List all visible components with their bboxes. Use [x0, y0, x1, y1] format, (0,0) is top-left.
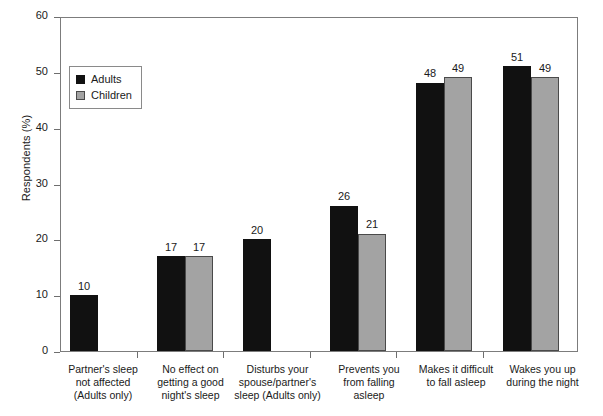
bar-adults-disturbs-spouse[interactable]: [243, 239, 271, 351]
y-tick-label-20: 20: [36, 232, 48, 244]
y-tick-0: 0: [0, 352, 60, 353]
y-tick-label-10: 10: [36, 288, 48, 300]
y-tick-40: 40: [0, 129, 60, 130]
bar-children-difficult-to-fall-asleep[interactable]: [444, 77, 472, 351]
y-axis-title: Respondents (%): [20, 58, 32, 258]
bar-children-prevents-falling-asleep[interactable]: [358, 234, 386, 351]
bar-value-g2-children: 17: [179, 241, 219, 253]
bar-value-g6-children: 49: [525, 62, 565, 74]
x-category-label-6-line1: Wakes you up: [490, 363, 595, 376]
bar-value-g3-adults: 20: [237, 224, 277, 236]
legend-entry-adults[interactable]: Adults: [76, 71, 132, 87]
y-tick-30: 30: [0, 185, 60, 186]
y-tick-60: 60: [0, 17, 60, 18]
bar-chart-figure: Respondents (%) 60 50 40 30 20 10 0 10: [0, 0, 603, 416]
legend-label-adults: Adults: [91, 73, 122, 85]
bar-adults-no-effect[interactable]: [157, 256, 185, 351]
x-tick-mark-4: [396, 352, 397, 358]
bar-children-no-effect[interactable]: [185, 256, 213, 351]
x-tick-mark-1: [137, 352, 138, 358]
x-category-label-4-line3: asleep: [319, 389, 419, 402]
legend-label-children: Children: [91, 89, 132, 101]
y-tick-10: 10: [0, 296, 60, 297]
bar-children-wakes-you-up[interactable]: [531, 77, 559, 351]
y-tick-50: 50: [0, 73, 60, 74]
x-tick-mark-5: [483, 352, 484, 358]
gray-square-icon: [76, 91, 85, 100]
y-tick-20: 20: [0, 240, 60, 241]
bar-value-g1-adults: 10: [64, 280, 104, 292]
x-tick-mark-2: [223, 352, 224, 358]
y-tick-label-40: 40: [36, 121, 48, 133]
y-tick-label-0: 0: [42, 344, 48, 356]
chart-legend: Adults Children: [69, 66, 142, 109]
black-square-icon: [76, 75, 85, 84]
y-tick-label-60: 60: [36, 9, 48, 21]
bar-adults-partners-sleep-not-affected[interactable]: [70, 295, 98, 351]
bar-adults-wakes-you-up[interactable]: [503, 66, 531, 351]
y-tick-mark-0: [54, 352, 60, 353]
plot-area: 10 17 17 20 26 21 48 49 51 49 Adults: [60, 17, 578, 352]
x-category-label-6: Wakes you up during the night: [490, 363, 595, 389]
bar-value-g5-children: 49: [438, 62, 478, 74]
x-tick-mark-3: [310, 352, 311, 358]
x-category-label-6-line2: during the night: [490, 376, 595, 389]
bar-adults-difficult-to-fall-asleep[interactable]: [416, 83, 444, 351]
legend-entry-children[interactable]: Children: [76, 87, 132, 103]
y-tick-label-50: 50: [36, 65, 48, 77]
bar-value-g4-adults: 26: [324, 190, 364, 202]
bar-value-g4-children: 21: [352, 218, 392, 230]
y-tick-label-30: 30: [36, 177, 48, 189]
